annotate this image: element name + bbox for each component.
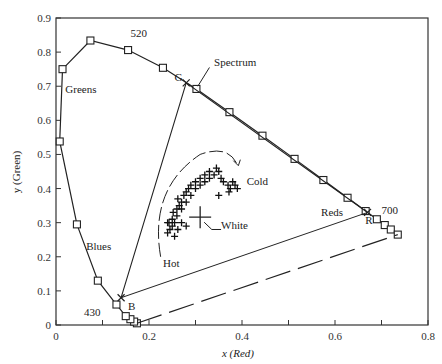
spectrum-pointer: [198, 67, 210, 86]
annotation-spectrum: Spectrum: [214, 56, 257, 68]
sample-point: [164, 219, 171, 226]
x-tick-label: 0: [53, 330, 59, 342]
spectrum-locus-line: [60, 41, 398, 324]
spectrum-point: [122, 313, 129, 320]
annotation-hot: Hot: [163, 257, 180, 269]
spectrum-point: [113, 301, 120, 308]
annotation-g: G: [175, 71, 183, 83]
annotation-white: White: [221, 219, 248, 231]
sample-point: [197, 175, 204, 182]
x-axis-label: x (Red): [221, 347, 254, 360]
marks: [56, 37, 401, 327]
y-tick-label: 0.6: [37, 114, 51, 126]
spectrum-point: [87, 37, 94, 44]
y-tick-label: 0.2: [37, 251, 51, 263]
annotation-700: 700: [382, 204, 399, 216]
y-tick-label: 0.1: [37, 285, 51, 297]
y-tick-label: 0.8: [37, 46, 51, 58]
sample-point: [201, 178, 208, 185]
x-tick-label: 0.8: [421, 330, 435, 342]
sample-point: [211, 171, 218, 178]
y-tick-label: 0.5: [37, 148, 51, 160]
y-tick-label: 0: [46, 319, 52, 331]
annotation-blues: Blues: [86, 240, 111, 252]
sample-point: [206, 175, 213, 182]
sample-point: [197, 182, 204, 189]
primaries-triangle: [121, 83, 367, 298]
y-tick-label: 0.7: [37, 80, 51, 92]
spectrum-point: [73, 221, 80, 228]
spectrum-point: [59, 66, 66, 73]
sample-point: [170, 209, 177, 216]
spectrum-point: [56, 138, 63, 145]
primary-G-marker: [183, 79, 190, 86]
spectrum-point: [125, 47, 132, 54]
annotation-b: B: [128, 300, 135, 312]
sample-point: [215, 192, 222, 199]
white-point-marker: [189, 206, 211, 228]
sample-point: [183, 223, 190, 230]
y-tick-label: 0.3: [37, 217, 51, 229]
annotation-reds: Reds: [321, 206, 343, 218]
sample-point: [174, 195, 181, 202]
spectrum-point: [159, 64, 166, 71]
y-tick-label: 0.4: [37, 183, 51, 195]
y-tick-label: 0.9: [37, 12, 51, 24]
annotation-520: 520: [130, 27, 147, 39]
x-tick-label: 0.2: [142, 330, 156, 342]
sample-point: [192, 185, 199, 192]
primary-B-marker: [118, 294, 125, 301]
x-tick-label: 0.4: [235, 330, 249, 342]
annotation-430: 430: [84, 306, 101, 318]
spectrum-point: [387, 226, 394, 233]
sample-point: [178, 219, 185, 226]
x-tick-label: 0.6: [328, 330, 342, 342]
annotation-cold: Cold: [247, 175, 269, 187]
sample-point: [225, 188, 232, 195]
annotation-greens: Greens: [65, 83, 96, 95]
sample-point: [183, 199, 190, 206]
sample-point: [171, 233, 178, 240]
spectrum-point: [94, 277, 101, 284]
sample-point: [201, 171, 208, 178]
labels: 520SpectrumGreensBluesReds700430ColdHotW…: [65, 27, 398, 319]
sample-point: [187, 192, 194, 199]
chromaticity-chart: 00.20.40.60.800.10.20.30.40.50.60.70.80.…: [0, 0, 442, 364]
sample-point: [192, 178, 199, 185]
spectrum-point: [373, 216, 380, 223]
annotation-r: R: [365, 214, 373, 226]
hot-to-cold-arc: [158, 151, 237, 257]
sample-point: [174, 226, 181, 233]
white-pointer: [204, 222, 221, 229]
sample-point: [173, 212, 180, 219]
sample-point: [206, 168, 213, 175]
y-axis-label: y (Green): [10, 150, 23, 193]
arrowhead-icon: [233, 160, 240, 166]
